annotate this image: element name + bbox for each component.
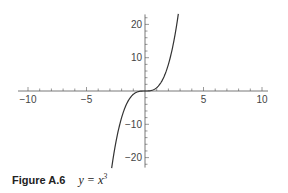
figure-caption: Figure A.6 y = x3 [12, 172, 107, 188]
y-tick-label: 10 [131, 52, 143, 63]
chart-plot: −10−5510−20−101020 [0, 0, 288, 175]
x-tick-label: −5 [81, 94, 93, 105]
equation-lhs: y = x [78, 173, 103, 187]
figure-equation: y = x3 [78, 173, 107, 187]
y-tick-label: −20 [125, 152, 142, 163]
x-tick-label: −10 [20, 94, 37, 105]
y-tick-label: 20 [131, 19, 143, 30]
equation-exponent: 3 [103, 172, 107, 181]
x-tick-label: 10 [256, 94, 268, 105]
figure-label: Figure A.6 [12, 174, 65, 186]
y-tick-label: −10 [125, 119, 142, 130]
x-tick-label: 5 [201, 94, 207, 105]
